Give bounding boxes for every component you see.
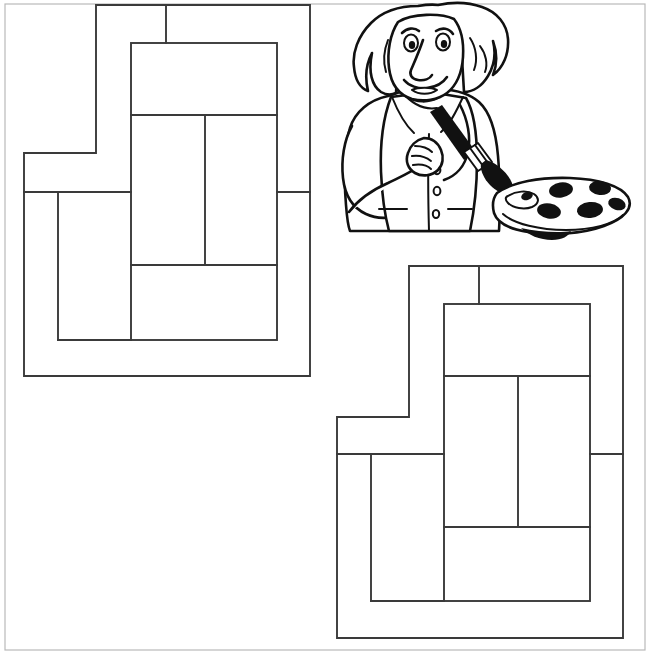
cartoon-painter-einstein[interactable] xyxy=(342,3,629,240)
painter-pupil-right xyxy=(441,40,447,48)
shape-right-inner-rect xyxy=(444,304,590,601)
geometric-shape-left[interactable] xyxy=(24,5,310,376)
worksheet-artboard xyxy=(0,0,650,655)
worksheet-canvas: Coloring Page - Geometric Shape Puzzle w… xyxy=(0,0,650,655)
geometric-shape-right[interactable] xyxy=(337,266,623,638)
painter-mouth xyxy=(412,88,437,94)
shape-left-inner-rect xyxy=(131,43,277,340)
painter-pupil-left xyxy=(409,41,415,49)
